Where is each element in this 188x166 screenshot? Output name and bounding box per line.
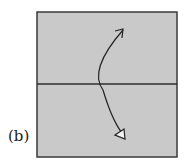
figure-label: (b) [8, 127, 29, 145]
